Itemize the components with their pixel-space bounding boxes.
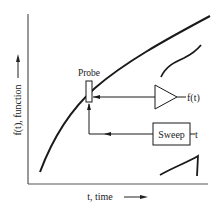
arrow-right-icon: [124, 195, 148, 199]
arrow-up-to-probe-icon: [87, 103, 91, 110]
arrow-left-icon: [93, 95, 100, 99]
oscilloscope-diagram: f(t), function t, time Probe f(t) Sweep …: [0, 0, 219, 206]
sweep-feedback-line: [89, 104, 153, 134]
sweep-output-label: t: [195, 129, 198, 140]
x-axis-label: t, time: [87, 191, 113, 202]
y-axis-label: f(t), function: [12, 84, 24, 135]
probe: [86, 81, 92, 102]
arrow-left-sweep-icon: [104, 132, 111, 136]
probe-label: Probe: [78, 68, 100, 78]
amplifier-output-label: f(t): [187, 92, 200, 104]
sweep-label: Sweep: [158, 129, 185, 140]
function-curve: [40, 16, 210, 172]
output-waveform: [161, 45, 201, 77]
y-axis-label-group: f(t), function: [12, 84, 24, 135]
amplifier-triangle-icon: [155, 85, 177, 109]
arrow-up-icon: [16, 54, 20, 78]
sweep-sawtooth: [160, 156, 198, 176]
